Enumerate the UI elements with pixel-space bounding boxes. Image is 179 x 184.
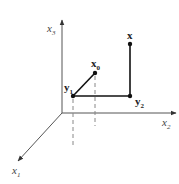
segments [73, 44, 130, 96]
axis-label-x2: x2 [161, 116, 171, 131]
point-label-x: x [127, 29, 133, 41]
point-label-x0: x0 [91, 57, 101, 72]
point-label-y2: y2 [135, 95, 145, 110]
point-x [128, 42, 132, 46]
point-y2 [128, 94, 132, 98]
labels: x3x2x1y1x0y2x [11, 22, 171, 179]
axis-x1 [18, 113, 62, 161]
axis-label-x1: x1 [11, 164, 20, 179]
axis-label-x3: x3 [46, 22, 56, 37]
dashed-projections [73, 76, 95, 148]
coordinate-diagram: x3x2x1y1x0y2x [0, 0, 179, 184]
segment-y1-x0 [73, 73, 95, 96]
axes [18, 20, 176, 161]
point-label-y1: y1 [64, 81, 74, 96]
